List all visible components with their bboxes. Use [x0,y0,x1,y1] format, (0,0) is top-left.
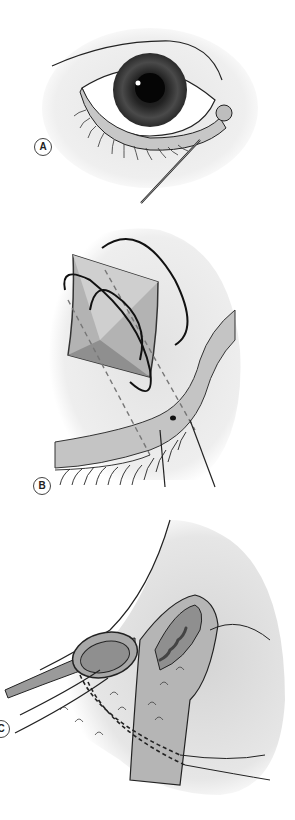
panel-label-a: A [34,138,52,156]
canaliculus-cross-section-illustration [0,500,295,820]
figure-panel-a: A [0,0,295,210]
figure-panel-b: B [0,210,295,500]
bolster-suture-illustration [0,210,295,500]
eye-probe-illustration [0,0,295,210]
figure-panel-c: C [0,500,295,820]
panel-label-b: B [33,477,51,495]
figure-caption-fragment [0,814,295,820]
